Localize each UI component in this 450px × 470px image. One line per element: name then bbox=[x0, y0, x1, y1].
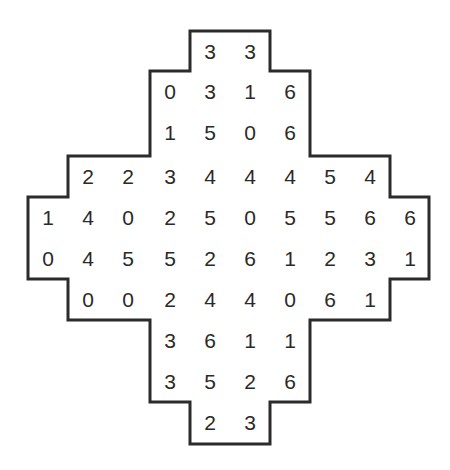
grid-cell[interactable]: 1 bbox=[270, 320, 310, 361]
grid-cell[interactable]: 1 bbox=[230, 320, 270, 361]
grid-cell[interactable]: 2 bbox=[190, 402, 230, 443]
grid-cell[interactable]: 0 bbox=[230, 197, 270, 238]
grid-cell[interactable]: 4 bbox=[68, 238, 108, 279]
grid-cell[interactable]: 3 bbox=[190, 71, 230, 112]
grid-cell[interactable]: 4 bbox=[190, 279, 230, 320]
grid-cell[interactable]: 0 bbox=[28, 238, 68, 279]
grid-cell[interactable]: 4 bbox=[190, 156, 230, 197]
grid-cell[interactable]: 3 bbox=[230, 31, 270, 72]
grid-cell[interactable]: 3 bbox=[350, 238, 390, 279]
grid-cell[interactable]: 2 bbox=[230, 361, 270, 402]
grid-cell[interactable]: 4 bbox=[270, 156, 310, 197]
grid-cell[interactable]: 1 bbox=[270, 238, 310, 279]
grid-cell[interactable]: 2 bbox=[150, 279, 190, 320]
grid-cell[interactable]: 2 bbox=[68, 156, 108, 197]
grid-cell[interactable]: 0 bbox=[230, 112, 270, 153]
grid-cell[interactable]: 6 bbox=[270, 112, 310, 153]
grid-cell[interactable]: 2 bbox=[150, 197, 190, 238]
grid-cell[interactable]: 5 bbox=[270, 197, 310, 238]
grid-cell[interactable]: 6 bbox=[270, 361, 310, 402]
grid-cell[interactable]: 3 bbox=[230, 402, 270, 443]
grid-cell[interactable]: 5 bbox=[310, 156, 350, 197]
grid-cell[interactable]: 2 bbox=[108, 156, 148, 197]
grid-cell[interactable]: 1 bbox=[230, 71, 270, 112]
grid-cell[interactable]: 3 bbox=[150, 361, 190, 402]
grid-cell[interactable]: 1 bbox=[390, 238, 430, 279]
grid-cell[interactable]: 4 bbox=[68, 197, 108, 238]
grid-cell[interactable]: 5 bbox=[190, 112, 230, 153]
grid-cell[interactable]: 6 bbox=[310, 279, 350, 320]
grid-cell[interactable]: 3 bbox=[150, 156, 190, 197]
grid-cell[interactable]: 6 bbox=[270, 71, 310, 112]
grid-cell[interactable]: 5 bbox=[108, 238, 148, 279]
grid-cell[interactable]: 3 bbox=[190, 31, 230, 72]
grid-cell[interactable]: 2 bbox=[190, 238, 230, 279]
grid-cell[interactable]: 5 bbox=[190, 197, 230, 238]
grid-cell[interactable]: 0 bbox=[270, 279, 310, 320]
grid-cell[interactable]: 0 bbox=[108, 197, 148, 238]
grid-cell[interactable]: 0 bbox=[150, 71, 190, 112]
grid-cell[interactable]: 1 bbox=[350, 279, 390, 320]
grid-cell[interactable]: 4 bbox=[230, 279, 270, 320]
grid-cell[interactable]: 1 bbox=[150, 112, 190, 153]
grid-cell[interactable]: 0 bbox=[108, 279, 148, 320]
grid-cell[interactable]: 0 bbox=[68, 279, 108, 320]
grid-cell[interactable]: 6 bbox=[350, 197, 390, 238]
grid-cell[interactable]: 3 bbox=[150, 320, 190, 361]
grid-cell[interactable]: 6 bbox=[190, 320, 230, 361]
grid-cell[interactable]: 1 bbox=[28, 197, 68, 238]
puzzle-board: 3303161506223444541402505566045526123100… bbox=[0, 0, 450, 470]
grid-cell[interactable]: 6 bbox=[390, 197, 430, 238]
grid-cell[interactable]: 5 bbox=[190, 361, 230, 402]
grid-cell[interactable]: 6 bbox=[230, 238, 270, 279]
grid-cell[interactable]: 5 bbox=[310, 197, 350, 238]
grid-cell[interactable]: 4 bbox=[230, 156, 270, 197]
grid-cell[interactable]: 5 bbox=[150, 238, 190, 279]
grid-cell[interactable]: 4 bbox=[350, 156, 390, 197]
grid-cell[interactable]: 2 bbox=[310, 238, 350, 279]
